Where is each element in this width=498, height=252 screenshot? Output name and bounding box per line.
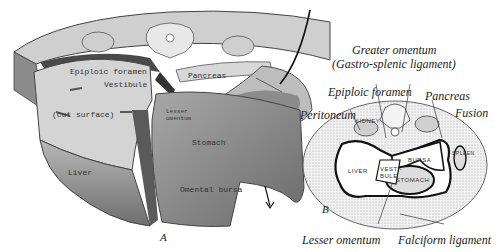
label-kidney-b: KIDNEY [355, 118, 380, 124]
label-liver-b: LIVER [348, 168, 368, 174]
label-greater-omentum: Greater omentum [352, 43, 437, 58]
label-cut-surface: (cut surface) [52, 110, 114, 119]
label-spleen-b: SPLEEN [452, 150, 475, 156]
label-gastro-splenic-ligament: (Gastro-splenic ligament) [332, 57, 456, 72]
label-falciform-ligament: Falciform ligament [398, 233, 491, 248]
anatomy-figure: Epiploic foramen Vestibule Pancreas (cut… [0, 0, 498, 252]
label-fusion: Fusion [455, 106, 488, 121]
label-epiploic-foramen-b: Epiploic foramen [328, 85, 412, 100]
label-stomach-a: Stomach [192, 138, 226, 147]
label-liver-a: Liver [68, 168, 92, 177]
label-vestibule-a: Vestibule [104, 80, 147, 89]
label-lesser-omentum-b: Lesser omentum [302, 233, 380, 248]
label-pancreas-a: Pancreas [188, 71, 226, 80]
label-bursa-b: BURSA [408, 157, 431, 163]
panel-b-letter: B [322, 203, 329, 215]
label-stomach-b: STOMACH [396, 177, 429, 183]
figure-drawing [0, 0, 498, 252]
label-epiploic-foramen-a: Epiploic foramen [70, 67, 147, 76]
label-pancreas-b: Pancreas [425, 89, 470, 104]
label-peritoneum: Peritoneum [300, 108, 356, 123]
panel-a-letter: A [160, 231, 167, 243]
label-lesser-omentum-a: Lesser omentum [166, 108, 206, 122]
label-omental-bursa: Omental bursa [180, 185, 242, 194]
